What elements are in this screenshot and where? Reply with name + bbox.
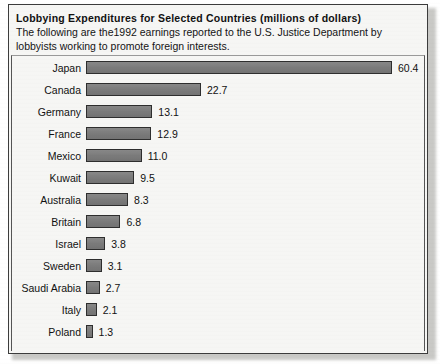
bar-value-label: 13.1: [158, 101, 178, 123]
bar-row: Germany13.1: [9, 101, 429, 123]
bar-row: Britain6.8: [9, 211, 429, 233]
bar-value-label: 22.7: [207, 79, 227, 101]
bar-value-label: 9.5: [140, 167, 155, 189]
bar: [86, 193, 128, 206]
chart-panel: Lobbying Expenditures for Selected Count…: [8, 4, 428, 354]
bar-row: Canada22.7: [9, 79, 429, 101]
bar: [86, 171, 134, 184]
chart-title: Lobbying Expenditures for Selected Count…: [16, 12, 417, 25]
bar-track: 6.8: [86, 211, 425, 233]
bar-row: Saudi Arabia2.7: [9, 277, 429, 299]
bar: [86, 259, 102, 272]
bar-row: France12.9: [9, 123, 429, 145]
bar-category-label: Saudi Arabia: [9, 277, 81, 299]
bar-row: Australia8.3: [9, 189, 429, 211]
bar-category-label: Britain: [9, 211, 81, 233]
bar-value-label: 3.1: [108, 255, 123, 277]
bar-track: 3.1: [86, 255, 425, 277]
bar-row: Kuwait9.5: [9, 167, 429, 189]
bar-row: Italy2.1: [9, 299, 429, 321]
bar-value-label: 1.3: [99, 321, 114, 343]
bar: [86, 105, 152, 118]
bar-category-label: France: [9, 123, 81, 145]
bar-track: 8.3: [86, 189, 425, 211]
bar-track: 1.3: [86, 321, 425, 343]
bar-track: 3.8: [86, 233, 425, 255]
bar-track: 22.7: [86, 79, 425, 101]
bar-value-label: 2.1: [103, 299, 118, 321]
bar: [86, 149, 142, 162]
chart-subtitle: The following are the1992 earnings repor…: [16, 26, 420, 53]
bar: [86, 61, 392, 74]
bar-category-label: Kuwait: [9, 167, 81, 189]
bar-value-label: 3.8: [111, 233, 126, 255]
bar-track: 2.1: [86, 299, 425, 321]
bar-value-label: 60.4: [398, 57, 418, 79]
bar-track: 12.9: [86, 123, 425, 145]
bar-value-label: 8.3: [134, 189, 149, 211]
bar-value-label: 11.0: [148, 145, 168, 167]
bar-category-label: Italy: [9, 299, 81, 321]
bar: [86, 303, 97, 316]
bar-category-label: Canada: [9, 79, 81, 101]
bar-value-label: 6.8: [126, 211, 141, 233]
bar: [86, 215, 120, 228]
bar: [86, 325, 93, 338]
bar-track: 13.1: [86, 101, 425, 123]
bar-row: Poland1.3: [9, 321, 429, 343]
bar-value-label: 12.9: [157, 123, 177, 145]
bar-track: 11.0: [86, 145, 425, 167]
bar-category-label: Sweden: [9, 255, 81, 277]
bar-track: 9.5: [86, 167, 425, 189]
bar-value-label: 2.7: [106, 277, 121, 299]
bar-category-label: Mexico: [9, 145, 81, 167]
bar: [86, 127, 151, 140]
bar: [86, 281, 100, 294]
bar-track: 60.4: [86, 57, 425, 79]
bar-row: Japan60.4: [9, 57, 429, 79]
bar-category-label: Israel: [9, 233, 81, 255]
bar-category-label: Germany: [9, 101, 81, 123]
bar-category-label: Poland: [9, 321, 81, 343]
bar-rows-container: Japan60.4Canada22.7Germany13.1France12.9…: [9, 57, 429, 353]
bar-category-label: Japan: [9, 57, 81, 79]
bar-track: 2.7: [86, 277, 425, 299]
bar-category-label: Australia: [9, 189, 81, 211]
bar-row: Sweden3.1: [9, 255, 429, 277]
chart-header: Lobbying Expenditures for Selected Count…: [9, 5, 427, 53]
chart-figure: Lobbying Expenditures for Selected Count…: [0, 0, 440, 364]
bar-row: Mexico11.0: [9, 145, 429, 167]
bar: [86, 83, 201, 96]
bar-row: Israel3.8: [9, 233, 429, 255]
bar: [86, 237, 105, 250]
